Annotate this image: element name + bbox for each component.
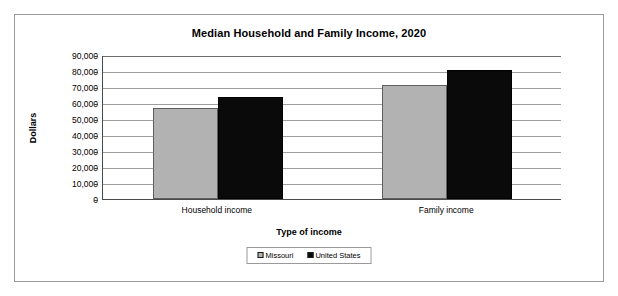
y-axis-tick-label: 20,000 xyxy=(40,163,98,173)
y-axis-tick-labels: 90,00080,00070,00060,00050,00040,00030,0… xyxy=(36,56,98,200)
x-axis-category-label: Family income xyxy=(419,205,474,215)
y-axis-tick-mark xyxy=(94,88,98,89)
y-axis-tick-mark xyxy=(94,136,98,137)
y-axis-tick-mark xyxy=(94,72,98,73)
gridline xyxy=(103,56,561,57)
bar-missouri-household-income xyxy=(153,108,218,199)
y-axis-tick-mark xyxy=(94,168,98,169)
x-axis-category-label: Household income xyxy=(182,205,252,215)
legend-label: Missouri xyxy=(266,251,294,260)
chart-outer-frame: Median Household and Family Income, 2020… xyxy=(14,14,604,282)
chart-figure: Median Household and Family Income, 2020… xyxy=(0,0,618,296)
y-axis-tick-label: 80,000 xyxy=(40,67,98,77)
y-axis-tick-mark xyxy=(94,56,98,57)
y-axis-tick-mark xyxy=(94,184,98,185)
y-axis-tick-label: 10,000 xyxy=(40,179,98,189)
bar-united-states-family-income xyxy=(447,70,512,199)
legend-swatch-icon xyxy=(307,252,313,258)
y-axis-tick-label: 70,000 xyxy=(40,83,98,93)
y-axis-tick-label: 30,000 xyxy=(40,147,98,157)
legend-entry-united-states: United States xyxy=(307,251,360,260)
chart-title: Median Household and Family Income, 2020 xyxy=(15,27,603,39)
y-axis-tick-mark xyxy=(94,152,98,153)
y-axis-tick-mark xyxy=(94,120,98,121)
y-axis-tick-label: 90,000 xyxy=(40,51,98,61)
y-axis-tick-label: 0 xyxy=(40,195,98,205)
y-axis-tick-label: 60,000 xyxy=(40,99,98,109)
legend-label: United States xyxy=(315,251,360,260)
chart-legend: MissouriUnited States xyxy=(247,247,372,264)
y-axis-tick-label: 40,000 xyxy=(40,131,98,141)
x-axis-title: Type of income xyxy=(15,227,603,237)
bar-missouri-family-income xyxy=(382,85,447,199)
y-axis-tick-mark xyxy=(94,104,98,105)
legend-entry-missouri: Missouri xyxy=(258,251,294,260)
y-axis-tick-label: 50,000 xyxy=(40,115,98,125)
bar-united-states-household-income xyxy=(218,97,283,199)
y-axis-tick-mark xyxy=(94,200,98,201)
plot-area xyxy=(102,56,561,200)
legend-swatch-icon xyxy=(258,252,264,258)
